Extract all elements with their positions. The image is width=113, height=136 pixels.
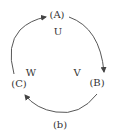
edge-label-u: U	[54, 27, 62, 37]
edge-label-w: W	[26, 68, 36, 78]
node-c-label: (C)	[11, 79, 26, 89]
arrow-c-to-a	[11, 17, 46, 74]
figure-caption: (b)	[53, 120, 67, 130]
cycle-arrows	[0, 0, 113, 136]
cycle-diagram: (A) (B) (C) U V W (b)	[0, 0, 113, 136]
node-a-label: (A)	[49, 10, 64, 20]
edge-label-v: V	[73, 68, 80, 78]
node-b-label: (B)	[89, 78, 104, 88]
arrow-b-to-c	[25, 94, 97, 113]
arrow-a-to-b	[69, 17, 104, 72]
